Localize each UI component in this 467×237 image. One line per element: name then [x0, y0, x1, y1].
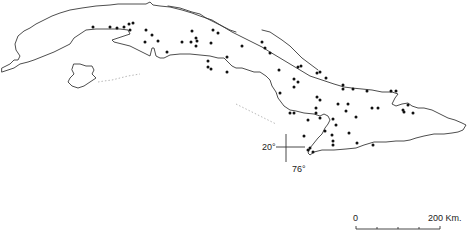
location-marker [191, 30, 194, 33]
location-marker [128, 23, 131, 26]
location-marker [348, 132, 351, 135]
location-marker [129, 29, 132, 32]
location-marker [289, 112, 292, 115]
location-marker [207, 60, 210, 63]
location-marker [261, 41, 264, 44]
cuba-map: 20° 76° 0 200 Km. [0, 0, 467, 237]
location-marker [293, 112, 296, 115]
location-marker [279, 92, 282, 95]
location-marker [264, 47, 267, 50]
location-marker [144, 41, 147, 44]
location-marker [371, 107, 374, 110]
location-marker [337, 103, 340, 106]
location-marker [315, 107, 318, 110]
location-marker [145, 29, 148, 32]
location-marker [297, 66, 300, 69]
location-marker [278, 69, 281, 72]
location-marker [324, 130, 327, 133]
location-marker [316, 96, 319, 99]
location-marker [132, 22, 135, 25]
northern-cays [168, 6, 236, 32]
location-marker [347, 103, 350, 106]
location-marker [335, 124, 338, 127]
location-marker [325, 77, 328, 80]
location-marker [195, 45, 198, 48]
location-marker [207, 66, 210, 69]
latitude-label: 20° [262, 143, 276, 152]
location-marker [355, 116, 358, 119]
location-marker [352, 88, 355, 91]
location-marker [109, 26, 112, 29]
location-marker [293, 86, 296, 89]
location-marker [151, 34, 154, 37]
location-marker [166, 51, 169, 54]
location-marker [307, 119, 310, 122]
location-marker [190, 41, 193, 44]
location-marker [332, 118, 335, 121]
location-marker [195, 37, 198, 40]
location-marker [332, 144, 335, 147]
location-marker [342, 84, 345, 87]
location-marker [319, 117, 322, 120]
location-marker [332, 140, 335, 143]
location-marker [210, 68, 213, 71]
map-canvas [0, 0, 467, 237]
location-marker [226, 56, 229, 59]
location-marker [297, 81, 300, 84]
scale-end-label: 200 Km. [428, 214, 462, 223]
location-marker [212, 29, 215, 32]
location-marker [319, 99, 322, 102]
isla-de-la-juventud [68, 64, 96, 88]
location-marker [331, 134, 334, 137]
location-marker [312, 151, 315, 154]
location-marker [307, 149, 310, 152]
location-marker [303, 135, 306, 138]
location-marker [412, 112, 415, 115]
location-marker [217, 32, 220, 35]
southern-cays-canarreos [98, 74, 140, 82]
location-marker [395, 90, 398, 93]
location-marker [319, 71, 322, 74]
location-marker [210, 42, 213, 45]
location-marker [403, 111, 406, 114]
cuba-coastline [2, 2, 466, 155]
location-marker [157, 40, 160, 43]
location-marker [356, 142, 359, 145]
graticule-cross [276, 134, 305, 162]
location-marker [116, 27, 119, 30]
longitude-label: 76° [292, 165, 306, 174]
scale-start-label: 0 [353, 214, 358, 223]
location-marker [390, 90, 393, 93]
location-marker [366, 90, 369, 93]
location-marker [269, 52, 272, 55]
location-marker [123, 26, 126, 29]
location-marker [345, 110, 348, 113]
location-marker [316, 72, 319, 75]
location-marker [226, 71, 229, 74]
location-marker [372, 144, 375, 147]
location-marker [377, 107, 380, 110]
location-marker [293, 78, 296, 81]
location-markers [92, 22, 415, 154]
location-marker [342, 88, 345, 91]
location-marker [300, 65, 303, 68]
location-marker [241, 45, 244, 48]
location-marker [315, 112, 318, 115]
location-marker [181, 41, 184, 44]
location-marker [407, 104, 410, 107]
southern-cays-jardines [236, 104, 276, 124]
location-marker [196, 40, 199, 43]
location-marker [92, 26, 95, 29]
scale-bar [356, 226, 440, 229]
